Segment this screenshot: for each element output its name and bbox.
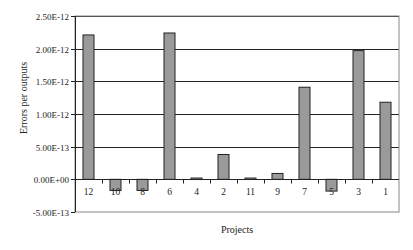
x-tick-label: 9 — [275, 187, 280, 197]
y-tick-label: 2.00E-12 — [36, 45, 69, 55]
bar-project-3 — [353, 51, 364, 180]
x-tick-label: 12 — [84, 187, 94, 197]
bar-project-7 — [299, 87, 310, 179]
x-tick-label: 10 — [111, 187, 121, 197]
y-tick-label: 1.00E-12 — [36, 110, 69, 120]
bar-project-12 — [83, 35, 94, 179]
x-tick-label: 7 — [302, 187, 307, 197]
bar-chart: -5.00E-130.00E+005.00E-131.00E-121.50E-1… — [0, 0, 413, 250]
bar-project-6 — [164, 33, 175, 179]
x-tick-label: 11 — [246, 187, 255, 197]
x-axis-title: Projects — [221, 224, 253, 235]
x-tick-label: 6 — [167, 187, 172, 197]
x-tick-label: 4 — [194, 187, 199, 197]
bar-project-9 — [272, 173, 283, 179]
y-tick-label: 5.00E-13 — [36, 143, 70, 153]
y-axis-title: Errors per outputs — [18, 62, 29, 134]
x-tick-label: 3 — [356, 187, 361, 197]
bar-project-1 — [380, 102, 391, 179]
x-tick-label: 2 — [221, 187, 226, 197]
x-tick-labels: 121086421197531 — [84, 187, 388, 197]
y-tick-label: 1.50E-12 — [36, 77, 69, 87]
bar-project-2 — [218, 155, 229, 180]
bars — [83, 33, 391, 191]
x-tick-label: 1 — [383, 187, 388, 197]
y-tick-label: 2.50E-12 — [36, 12, 69, 22]
x-tick-label: 5 — [329, 187, 334, 197]
x-tick-label: 8 — [140, 187, 145, 197]
y-tick-label: -5.00E-13 — [33, 208, 70, 218]
gridlines — [75, 17, 399, 148]
y-tick-labels: -5.00E-130.00E+005.00E-131.00E-121.50E-1… — [33, 12, 70, 218]
y-tick-label: 0.00E+00 — [34, 175, 70, 185]
